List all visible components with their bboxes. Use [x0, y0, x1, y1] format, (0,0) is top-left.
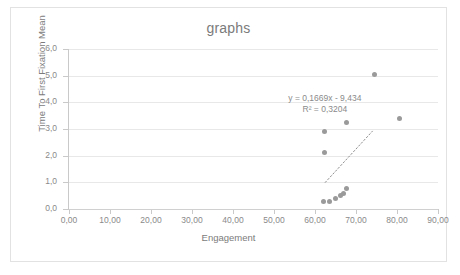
- x-tick-mark-8: [397, 210, 398, 214]
- x-tick-label-2: 20,00: [131, 216, 171, 225]
- x-tick-label-0: 0,00: [49, 216, 89, 225]
- x-tick-mark-2: [151, 210, 152, 214]
- y-tick-mark-3: [63, 129, 68, 130]
- x-tick-label-5: 50,00: [254, 216, 294, 225]
- x-tick-label-8: 80,00: [377, 216, 417, 225]
- gridline-y-6: [69, 49, 438, 50]
- y-tick-label-5: 5,0: [23, 71, 57, 80]
- x-tick-mark-4: [233, 210, 234, 214]
- gridline-y-2: [69, 156, 438, 157]
- scatter-point: [327, 199, 332, 204]
- gridline-y-5: [69, 76, 438, 77]
- y-tick-label-0: 0,0: [23, 204, 57, 213]
- y-tick-mark-4: [63, 102, 68, 103]
- scatter-point: [322, 129, 327, 134]
- chart-title: graphs: [11, 20, 446, 36]
- y-tick-mark-0: [63, 209, 68, 210]
- y-tick-mark-5: [63, 76, 68, 77]
- gridline-y-4: [69, 102, 438, 103]
- x-tick-mark-7: [356, 210, 357, 214]
- y-tick-mark-1: [63, 182, 68, 183]
- gridline-y-0: [69, 209, 438, 210]
- scatter-point: [322, 150, 327, 155]
- x-tick-label-3: 30,00: [172, 216, 212, 225]
- plot-area[interactable]: y = 0,1669x - 9,434 R² = 0,3204: [69, 49, 438, 209]
- x-tick-mark-9: [438, 210, 439, 214]
- x-tick-mark-3: [192, 210, 193, 214]
- x-tick-label-1: 10,00: [90, 216, 130, 225]
- y-tick-mark-6: [63, 49, 68, 50]
- y-tick-label-1: 1,0: [23, 177, 57, 186]
- x-axis-title: Engagement: [11, 232, 446, 243]
- trendline-r-squared: R² = 0,3204: [288, 104, 361, 115]
- scatter-point: [344, 120, 349, 125]
- y-tick-label-2: 2,0: [23, 151, 57, 160]
- y-tick-label-4: 4,0: [23, 97, 57, 106]
- y-tick-label-6: 6,0: [23, 44, 57, 53]
- x-tick-label-7: 70,00: [336, 216, 376, 225]
- scatter-point: [321, 199, 326, 204]
- x-tick-mark-6: [315, 210, 316, 214]
- scatter-point: [397, 116, 402, 121]
- y-tick-mark-2: [63, 156, 68, 157]
- gridline-y-3: [69, 129, 438, 130]
- gridline-y-1: [69, 182, 438, 183]
- x-tick-label-9: 90,00: [418, 216, 458, 225]
- x-tick-mark-0: [69, 210, 70, 214]
- scatter-point: [372, 72, 377, 77]
- x-tick-mark-1: [110, 210, 111, 214]
- chart-frame[interactable]: graphs Time To First Fixation Mean Engag…: [10, 7, 447, 262]
- trendline-equation-box: y = 0,1669x - 9,434 R² = 0,3204: [288, 93, 361, 115]
- x-tick-label-4: 40,00: [213, 216, 253, 225]
- x-tick-mark-5: [274, 210, 275, 214]
- y-tick-label-3: 3,0: [23, 124, 57, 133]
- scatter-point: [341, 191, 346, 196]
- scatter-point: [344, 186, 349, 191]
- trendline-equation: y = 0,1669x - 9,434: [288, 93, 361, 104]
- x-tick-label-6: 60,00: [295, 216, 335, 225]
